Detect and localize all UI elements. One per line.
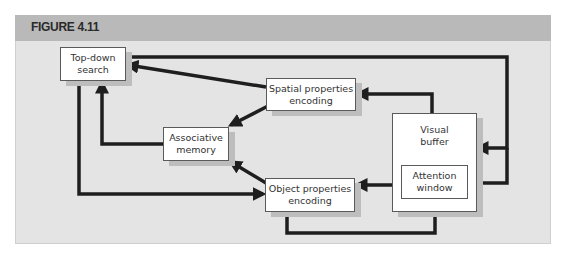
- node-object-properties-encoding: Object properties encoding: [265, 178, 355, 212]
- node-label: Associative memory: [169, 132, 223, 156]
- arrow-object-to-associative: [231, 162, 266, 183]
- node-spatial-properties-encoding: Spatial properties encoding: [266, 78, 356, 111]
- node-attention-window: Attention window: [401, 165, 468, 199]
- node-top-down-search: Top-down search: [60, 47, 126, 81]
- node-label: Spatial properties encoding: [269, 83, 353, 107]
- node-label: Attention window: [413, 170, 457, 194]
- node-associative-memory: Associative memory: [163, 127, 229, 161]
- node-label: Top-down search: [70, 52, 115, 76]
- arrow-spatial-to-associative: [231, 106, 268, 125]
- arrows-layer: [0, 0, 568, 258]
- arrow-spatial-to-topdown: [128, 65, 266, 87]
- node-label: Visual buffer: [420, 124, 448, 148]
- arrow-associative-to-topdown: [102, 83, 163, 144]
- node-label: Object properties encoding: [269, 183, 351, 207]
- arrow-visualbuffer-to-spatial: [358, 94, 432, 113]
